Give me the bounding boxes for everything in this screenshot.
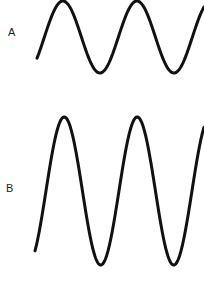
wave-b-label: B [6,182,13,194]
wave-a-line [37,1,204,73]
wave-a-label: A [8,26,15,38]
waves-diagram [0,0,204,284]
wave-b-line [35,117,204,265]
